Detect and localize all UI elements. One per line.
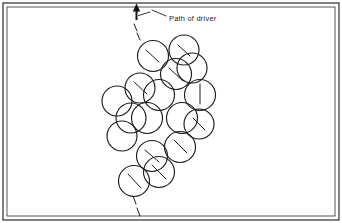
driver-path-segment — [137, 208, 140, 216]
ball-tick-mark — [128, 174, 141, 188]
figure-outer-border — [3, 3, 339, 220]
ball-tick-mark — [169, 68, 183, 81]
ball-tick-mark — [145, 150, 159, 162]
ball-tick-mark — [193, 118, 205, 130]
ball-circle — [132, 103, 163, 134]
ball-circle — [144, 80, 175, 111]
driver-path-dashed-line — [133, 24, 140, 216]
ball-tick-mark — [146, 50, 159, 62]
figure-inner-border — [7, 7, 335, 216]
arrow-head-icon — [133, 4, 140, 12]
ball-circle — [107, 121, 137, 151]
direction-arrow — [133, 4, 150, 21]
arrow-barb — [139, 12, 151, 16]
path-of-driver-label: Path of driver — [169, 14, 217, 23]
ball-tick-mark — [178, 45, 190, 56]
ball-circle — [177, 53, 207, 83]
driver-path-segment — [134, 24, 137, 31]
ball-tick-mark — [152, 165, 166, 179]
ball-circle — [165, 132, 196, 163]
ball-cluster — [102, 35, 216, 197]
driver-path-segment — [133, 196, 136, 204]
ball-tick-mark — [174, 140, 187, 153]
driver-path-segment — [137, 33, 140, 40]
figure-container: Path of driver — [0, 0, 342, 223]
annotation-leader-line — [152, 10, 166, 16]
line-drawing-canvas: Path of driver — [0, 0, 342, 223]
